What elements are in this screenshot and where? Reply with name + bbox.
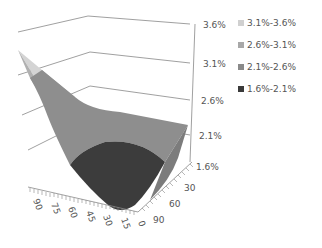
z-tick-label: 2.6% bbox=[201, 96, 224, 106]
legend-label: 1.6%-2.1% bbox=[247, 84, 296, 94]
legend: 3.1%-3.6% 2.6%-3.1% 2.1%-2.6% 1.6%-2.1% bbox=[238, 17, 296, 105]
x-tick-label: 45 bbox=[84, 209, 97, 223]
legend-swatch bbox=[238, 20, 244, 26]
legend-item: 2.6%-3.1% bbox=[238, 39, 296, 50]
z-tick-label: 2.1% bbox=[199, 131, 222, 141]
x-tick-label: 15 bbox=[119, 216, 132, 230]
z-tick-label: 1.6% bbox=[196, 162, 219, 172]
x-tick-label: 75 bbox=[49, 201, 62, 215]
legend-swatch bbox=[238, 86, 244, 92]
x-tick-label: 30 bbox=[101, 213, 114, 227]
legend-item: 1.6%-2.1% bbox=[238, 83, 296, 94]
legend-label: 3.1%-3.6% bbox=[247, 18, 296, 28]
z-tick-label: 3.1% bbox=[203, 59, 226, 69]
x-tick-label: 90 bbox=[31, 197, 44, 211]
legend-swatch bbox=[238, 64, 244, 70]
y-tick-label: 90 bbox=[153, 215, 165, 225]
legend-swatch bbox=[238, 42, 244, 48]
y-tick-label: 30 bbox=[184, 183, 196, 193]
z-tick-label: 3.6% bbox=[203, 20, 226, 30]
x-tick-label: 0 bbox=[136, 219, 147, 228]
legend-item: 2.1%-2.6% bbox=[238, 61, 296, 72]
legend-item: 3.1%-3.6% bbox=[238, 17, 296, 28]
x-tick-label: 60 bbox=[66, 205, 79, 219]
legend-label: 2.1%-2.6% bbox=[247, 62, 296, 72]
y-tick-label: 60 bbox=[169, 199, 181, 209]
surface bbox=[18, 50, 188, 210]
legend-label: 2.6%-3.1% bbox=[247, 40, 296, 50]
